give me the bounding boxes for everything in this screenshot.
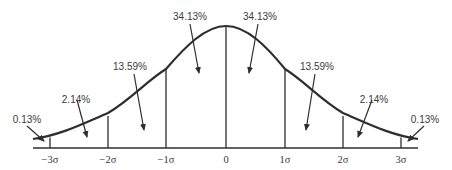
arrow-icon <box>306 74 315 130</box>
region-label-pos1-pos2: 13.59% <box>300 61 334 72</box>
axis-label-pos3: 3σ <box>396 154 407 165</box>
arrow-icon <box>190 24 199 73</box>
axis-label-0: 0 <box>223 154 228 165</box>
axis-label-neg1: −1σ <box>158 154 175 165</box>
axis-label-pos2: 2σ <box>338 154 349 165</box>
arrow-icon <box>134 74 144 130</box>
axis-label-pos1: 1σ <box>280 154 291 165</box>
region-label-neg2-neg1: 13.59% <box>113 61 147 72</box>
region-label-neg3-neg2: 2.14% <box>62 94 90 105</box>
arrow-icon <box>358 100 372 137</box>
region-label-neg1-0: 34.13% <box>173 11 207 22</box>
region-label-pos2-pos3: 2.14% <box>360 94 388 105</box>
axis-label-neg2: −2σ <box>100 154 117 165</box>
normal-distribution-diagram: 34.13% 34.13% 13.59% 13.59% 2.14% 2.14% … <box>0 0 452 170</box>
axis-label-neg3: −3σ <box>42 154 59 165</box>
region-label-left-tail: 0.13% <box>13 114 41 125</box>
arrow-icon <box>77 100 87 137</box>
region-label-right-tail: 0.13% <box>411 114 439 125</box>
region-label-0-pos1: 34.13% <box>243 11 277 22</box>
arrow-icon <box>249 24 258 73</box>
